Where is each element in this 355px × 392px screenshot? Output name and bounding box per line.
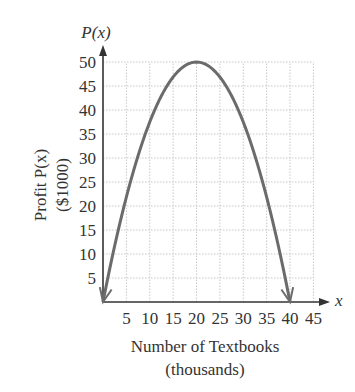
x-tick-label: 35 [258,309,275,328]
y-tick-labels: 5101520253035404550 [79,53,96,288]
y-tick-label: 15 [79,221,96,240]
x-tick-label: 15 [165,309,182,328]
y-tick-label: 40 [79,101,96,120]
y-tick-label: 25 [79,173,96,192]
x-tick-labels: 51015202530354045 [122,309,322,328]
y-axis-label-line1: Profit P(x) [31,149,50,221]
x-tick-label: 25 [211,309,228,328]
y-tick-label: 30 [79,149,96,168]
x-tick-label: 10 [141,309,158,328]
profit-chart: 5101520253035404550 51015202530354045 P(… [0,0,355,392]
x-axis-label-line1: Number of Textbooks [131,337,280,356]
y-axis-symbol: P(x) [80,23,111,42]
x-tick-label: 20 [188,309,205,328]
x-axis-symbol: x [334,291,343,310]
x-axis-label-line2: (thousands) [165,360,244,379]
x-tick-label: 30 [235,309,252,328]
y-tick-label: 50 [79,53,96,72]
x-axis-arrow-icon [319,298,330,306]
y-tick-label: 20 [79,197,96,216]
y-tick-label: 10 [79,245,96,264]
y-axis-label-line2: ($1000) [53,158,72,212]
x-tick-label: 45 [305,309,322,328]
y-axis-arrow-icon [99,45,107,56]
y-tick-label: 45 [79,77,96,96]
y-axis-label: Profit P(x) ($1000) [31,149,72,221]
x-tick-label: 40 [282,309,299,328]
y-tick-label: 35 [79,125,96,144]
y-tick-label: 5 [88,269,97,288]
x-tick-label: 5 [122,309,131,328]
